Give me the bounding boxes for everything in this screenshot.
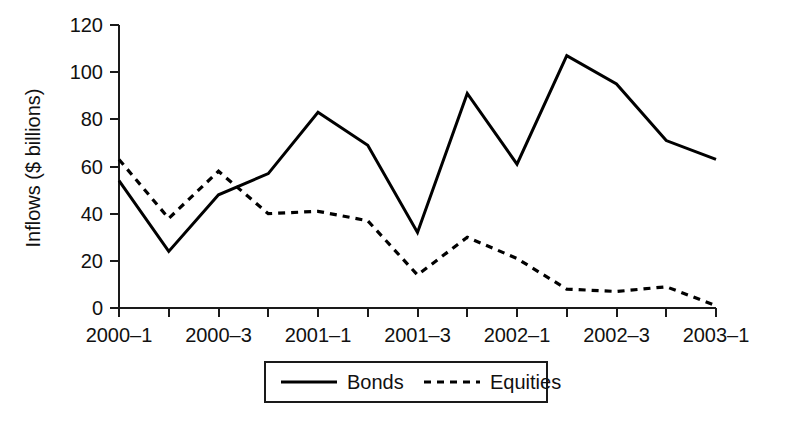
x-tick-label: 2003–1 — [683, 324, 750, 346]
x-tick-label: 2002–1 — [484, 324, 551, 346]
chart-figure: Inflows ($ billions) 020406080100120 200… — [0, 0, 792, 422]
legend-label-equities: Equities — [490, 371, 561, 393]
y-tick-label: 40 — [81, 203, 103, 225]
x-tick-label: 2002–3 — [583, 324, 650, 346]
x-tick-marks — [119, 308, 716, 317]
y-tick-marks — [110, 25, 119, 308]
y-tick-label: 120 — [70, 14, 103, 36]
line-chart: Inflows ($ billions) 020406080100120 200… — [0, 0, 792, 422]
y-tick-label: 100 — [70, 61, 103, 83]
y-axis-title-text: Inflows ($ billions) — [22, 89, 44, 248]
y-tick-label: 0 — [92, 297, 103, 319]
y-tick-label: 60 — [81, 156, 103, 178]
x-tick-label: 2000–1 — [86, 324, 153, 346]
y-axis-title: Inflows ($ billions) — [22, 89, 44, 248]
x-tick-label: 2000–3 — [185, 324, 252, 346]
x-tick-label: 2001–3 — [384, 324, 451, 346]
chart-legend: Bonds Equities — [265, 362, 561, 402]
x-tick-label: 2001–1 — [285, 324, 352, 346]
y-tick-label: 20 — [81, 250, 103, 272]
x-tick-labels: 2000–12000–32001–12001–32002–12002–32003… — [86, 324, 750, 346]
legend-label-bonds: Bonds — [347, 371, 404, 393]
y-tick-labels: 020406080100120 — [70, 14, 103, 319]
y-tick-label: 80 — [81, 108, 103, 130]
series-line-bonds — [119, 56, 716, 252]
